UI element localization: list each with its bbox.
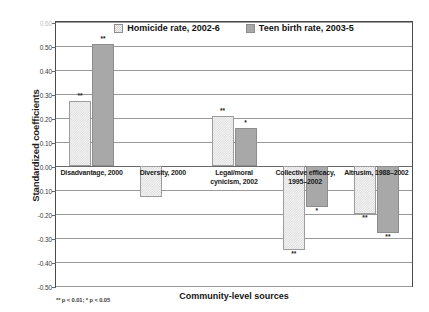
y-tick-label: 0.50 [40, 44, 52, 51]
y-tick-label: -0.30 [38, 236, 52, 243]
significance-marker: ** [291, 251, 296, 258]
significance-marker: ** [362, 215, 367, 222]
y-tick-mark [52, 47, 56, 48]
y-tick-mark [52, 263, 56, 264]
significance-marker: ** [78, 93, 83, 100]
legend-label-homicide: Homicide rate, 2002-6 [127, 23, 220, 33]
legend-item-homicide: Homicide rate, 2002-6 [114, 23, 220, 33]
y-tick-label: -0.50 [38, 284, 52, 291]
gridline: -0.20 [56, 214, 412, 215]
bar-teen-birth [235, 128, 257, 166]
significance-marker: ** [220, 108, 225, 115]
gridline: -0.50 [56, 286, 412, 287]
gridline: -0.40 [56, 262, 412, 263]
y-tick-mark [52, 71, 56, 72]
significance-marker: ** [385, 234, 390, 241]
significance-marker: * [315, 208, 318, 215]
y-tick-label: 0.10 [40, 140, 52, 147]
y-tick-mark [52, 239, 56, 240]
chart-legend: Homicide rate, 2002-6 Teen birth rate, 2… [62, 23, 406, 33]
y-tick-label: 0.20 [40, 116, 52, 123]
legend-swatch-teen-birth-icon [246, 24, 255, 33]
legend-swatch-homicide-icon [114, 24, 123, 33]
y-tick-label: 0.60 [40, 20, 52, 27]
y-tick-mark [52, 119, 56, 120]
bar-teen-birth [92, 44, 114, 166]
category-label: Altrusim, 1988–2002 [335, 169, 418, 178]
gridline: -0.30 [56, 238, 412, 239]
y-tick-mark [52, 167, 56, 168]
significance-marker: ** [101, 36, 106, 43]
y-tick-label: 0.40 [40, 68, 52, 75]
significance-footnote: ** p < 0.01; * p < 0.05 [56, 297, 110, 303]
y-tick-label: 0.30 [40, 92, 52, 99]
y-tick-label: -0.10 [38, 188, 52, 195]
y-tick-mark [52, 191, 56, 192]
bar-homicide [69, 101, 91, 166]
y-tick-label: -0.20 [38, 212, 52, 219]
plot-area: 0.600.500.400.300.200.100.00-0.10-0.20-0… [55, 21, 413, 287]
significance-marker: * [244, 120, 247, 127]
y-tick-mark [52, 23, 56, 24]
bar-homicide [212, 116, 234, 166]
y-tick-mark [52, 143, 56, 144]
legend-item-teen-birth: Teen birth rate, 2003-5 [246, 23, 354, 33]
legend-label-teen-birth: Teen birth rate, 2003-5 [259, 23, 354, 33]
y-tick-label: -0.40 [38, 260, 52, 267]
chart-figure: Standardized coefficients 0.600.500.400.… [0, 0, 429, 312]
y-tick-mark [52, 287, 56, 288]
y-tick-mark [52, 215, 56, 216]
y-tick-mark [52, 95, 56, 96]
